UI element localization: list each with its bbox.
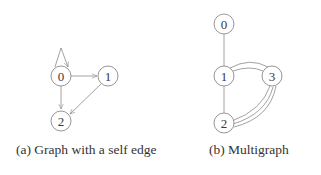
graph-a: 0 1 2 bbox=[51, 48, 118, 131]
edge-a-1-2 bbox=[70, 84, 101, 114]
svg-text:0: 0 bbox=[58, 69, 65, 84]
graph-a-node-1: 1 bbox=[98, 66, 118, 86]
edge-b-1-3-second bbox=[233, 68, 263, 71]
edge-b-3-2-third bbox=[234, 86, 276, 127]
graph-b-node-2: 2 bbox=[214, 113, 234, 133]
edge-b-1-3-first bbox=[230, 62, 268, 68]
edge-a-0-0-self-loop bbox=[55, 48, 68, 67]
graph-a-node-2: 2 bbox=[51, 111, 71, 131]
graph-b: 0 1 3 2 bbox=[214, 14, 282, 133]
svg-text:1: 1 bbox=[221, 69, 228, 84]
graph-b-node-1: 1 bbox=[214, 66, 234, 86]
svg-text:0: 0 bbox=[221, 17, 228, 32]
caption-a: (a) Graph with a self edge bbox=[16, 142, 157, 158]
svg-text:3: 3 bbox=[269, 69, 276, 84]
svg-text:2: 2 bbox=[58, 114, 65, 129]
svg-text:1: 1 bbox=[105, 69, 112, 84]
graph-a-node-0: 0 bbox=[51, 66, 71, 86]
svg-text:2: 2 bbox=[221, 116, 228, 131]
caption-b: (b) Multigraph bbox=[209, 142, 289, 158]
graph-b-node-0: 0 bbox=[214, 14, 234, 34]
graph-b-node-3: 3 bbox=[262, 66, 282, 86]
